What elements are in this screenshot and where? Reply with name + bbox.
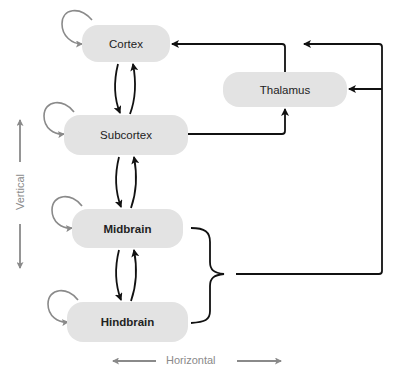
cortex-to-subcortex-arrow — [115, 64, 120, 113]
connections-layer — [0, 0, 393, 380]
subcortex-to-cortex-arrow — [130, 64, 135, 114]
subcortex-to-midbrain-arrow — [116, 157, 121, 207]
node-thalamus: Thalamus — [223, 72, 347, 107]
node-label: Thalamus — [260, 84, 311, 96]
node-label: Midbrain — [104, 223, 152, 235]
node-subcortex: Subcortex — [64, 115, 188, 155]
thalamus-to-cortex-arrow — [172, 44, 285, 72]
node-midbrain: Midbrain — [72, 209, 183, 248]
node-cortex: Cortex — [82, 25, 170, 62]
midbrain-to-subcortex-arrow — [131, 157, 136, 208]
subcortex-to-thalamus-arrow — [188, 109, 285, 134]
hindbrain-to-midbrain-arrow — [131, 250, 136, 301]
node-label: Hindbrain — [101, 316, 155, 328]
horizontal-axis-label: Horizontal — [166, 354, 216, 366]
node-label: Cortex — [109, 38, 143, 50]
node-label: Subcortex — [100, 129, 152, 141]
midbrain-to-hindbrain-arrow — [116, 250, 121, 300]
midbrain-hindbrain-brace — [191, 228, 224, 323]
vertical-axis-label: Vertical — [14, 170, 26, 214]
node-hindbrain: Hindbrain — [67, 302, 188, 342]
